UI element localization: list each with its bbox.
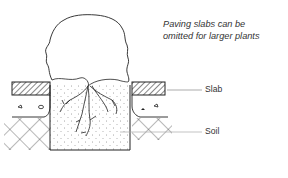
slab-label: Slab xyxy=(205,84,222,94)
soil-label: Soil xyxy=(205,126,219,136)
caption-note: Paving slabs can be omitted for larger p… xyxy=(163,18,260,42)
caption-line-1: Paving slabs can be xyxy=(163,18,260,30)
planting-diagram: Paving slabs can be omitted for larger p… xyxy=(0,0,288,178)
slab-left xyxy=(12,82,50,95)
subsoil-left xyxy=(4,118,50,150)
subsoil-right xyxy=(132,118,172,140)
slab-right xyxy=(132,82,165,95)
caption-line-2: omitted for larger plants xyxy=(163,30,260,42)
plant-canopy xyxy=(46,15,129,86)
